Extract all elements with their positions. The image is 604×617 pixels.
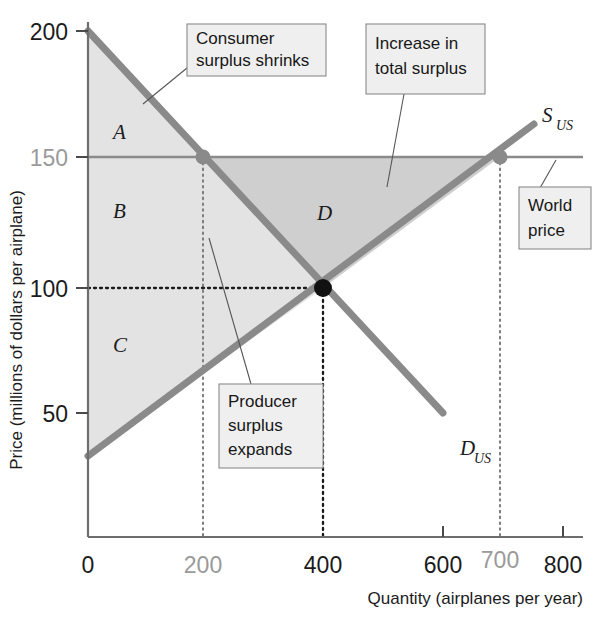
y-tick-label-100: 100 — [30, 276, 68, 302]
y-tick-label-150: 150 — [30, 145, 68, 171]
y-axis-title: Price (millions of dollars per airplane) — [7, 190, 26, 470]
leader-world-price — [540, 160, 556, 188]
callout-producer-surplus: Producer surplus expands — [219, 384, 323, 468]
callout-producer-surplus-line3: expands — [228, 440, 292, 459]
callout-total-surplus: Increase in total surplus — [366, 24, 485, 94]
chart-svg: 200 150 100 50 0 200 400 600 700 800 Pri… — [0, 0, 604, 617]
point-supply-at-world-price — [493, 150, 508, 165]
demand-curve-label-main: D — [459, 436, 475, 460]
region-label-b: B — [113, 199, 126, 223]
supply-curve-label: S US — [542, 103, 573, 133]
callout-world-price-line2: price — [528, 221, 565, 240]
x-tick-label-0: 0 — [82, 552, 95, 578]
y-tick-label-50: 50 — [42, 401, 68, 427]
x-axis-title: Quantity (airplanes per year) — [368, 589, 583, 608]
callout-consumer-surplus-line2: surplus shrinks — [196, 51, 309, 70]
supply-curve-label-sub: US — [556, 118, 573, 133]
demand-curve-label-sub: US — [474, 451, 491, 466]
demand-curve-label: D US — [459, 436, 491, 466]
leader-consumer-surplus — [143, 68, 187, 104]
callout-total-surplus-line1: Increase in — [375, 34, 458, 53]
economics-surplus-figure: 200 150 100 50 0 200 400 600 700 800 Pri… — [0, 0, 604, 617]
region-label-d: D — [316, 201, 332, 225]
x-tick-label-600: 600 — [424, 552, 462, 578]
callout-producer-surplus-line2: surplus — [228, 416, 283, 435]
region-label-a: A — [111, 120, 126, 144]
callout-consumer-surplus: Consumer surplus shrinks — [187, 24, 326, 76]
point-equilibrium — [314, 279, 332, 297]
point-demand-at-world-price — [196, 150, 211, 165]
callout-world-price-line1: World — [528, 196, 572, 215]
x-tick-label-800: 800 — [544, 552, 582, 578]
y-tick-label-200: 200 — [30, 19, 68, 45]
x-tick-label-200: 200 — [184, 552, 222, 578]
callout-consumer-surplus-line1: Consumer — [196, 29, 275, 48]
supply-curve-label-main: S — [542, 103, 553, 127]
x-tick-label-700: 700 — [481, 547, 519, 573]
callout-world-price: World price — [519, 187, 591, 249]
x-tick-label-400: 400 — [304, 552, 342, 578]
callout-total-surplus-line2: total surplus — [375, 59, 467, 78]
region-label-c: C — [113, 333, 128, 357]
callout-producer-surplus-line1: Producer — [228, 392, 297, 411]
